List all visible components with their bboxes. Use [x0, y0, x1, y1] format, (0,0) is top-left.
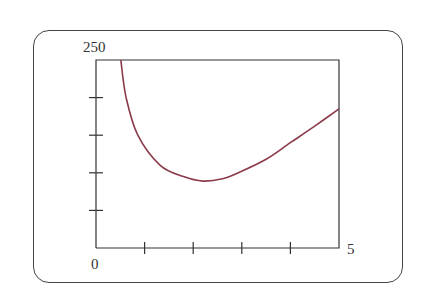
y-max-label: 250 [83, 40, 106, 55]
plot-frame [96, 60, 339, 248]
data-curve [121, 60, 339, 181]
x-max-label: 5 [347, 242, 355, 257]
x-min-label: 0 [91, 257, 99, 272]
plot-area [0, 0, 428, 299]
